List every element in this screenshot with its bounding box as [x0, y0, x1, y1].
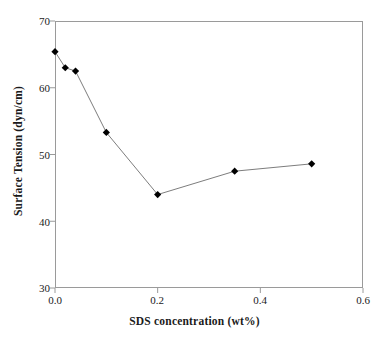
x-axis-title: SDS concentration (wt%) [0, 315, 389, 327]
y-axis-title: Surface Tension (dyn/cm) [12, 51, 24, 251]
x-tick-label-0: 0.0 [35, 295, 75, 306]
y-tick-label-40: 40 [20, 217, 50, 228]
surface-tension-chart: 70 60 50 40 30 0.0 0.2 0.4 0.6 SDS conce… [0, 0, 389, 344]
x-tick-label-3: 0.6 [343, 295, 383, 306]
y-tick-label-70: 70 [20, 16, 50, 27]
plot-area-frame [55, 21, 363, 288]
y-tick-label-50: 50 [20, 150, 50, 161]
x-tick-label-1: 0.2 [137, 295, 177, 306]
y-tick-label-30: 30 [20, 283, 50, 294]
x-tick-label-2: 0.4 [240, 295, 280, 306]
y-tick-label-60: 60 [20, 83, 50, 94]
